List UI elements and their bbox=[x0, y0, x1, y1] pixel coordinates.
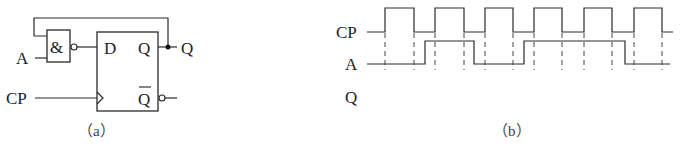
signal-label-q: Q bbox=[345, 88, 357, 107]
nand-gate-symbol: & bbox=[50, 38, 63, 57]
qbar-inversion-bubble-icon bbox=[159, 95, 165, 101]
output-q-label: Q bbox=[181, 39, 193, 58]
cp-waveform bbox=[367, 8, 673, 32]
junction-dot-icon bbox=[166, 45, 171, 50]
ff-qbar-label: Q bbox=[138, 90, 150, 109]
signal-label-cp: CP bbox=[336, 23, 357, 42]
diagram-canvas: A & D Q Q CP Q （a） CP A Q bbox=[0, 0, 685, 163]
caption-b: （b） bbox=[493, 123, 531, 139]
timing-diagram: CP A Q （b） bbox=[336, 8, 673, 139]
nand-inversion-bubble-icon bbox=[71, 44, 77, 50]
ff-q-label: Q bbox=[138, 39, 150, 58]
caption-a: （a） bbox=[78, 123, 115, 139]
input-a-label: A bbox=[16, 49, 29, 68]
input-cp-label: CP bbox=[6, 89, 27, 108]
ff-d-label: D bbox=[104, 39, 116, 58]
a-waveform bbox=[367, 41, 670, 64]
circuit-diagram: A & D Q Q CP Q （a） bbox=[6, 18, 193, 139]
signal-label-a: A bbox=[345, 55, 358, 74]
